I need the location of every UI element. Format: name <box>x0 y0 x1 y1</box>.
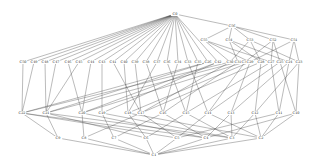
lattice-node-c23: C23 <box>295 60 303 64</box>
node-label: C33 <box>185 60 192 64</box>
lattice-edge <box>175 14 198 62</box>
lattice-node-c6: C6 <box>142 136 150 140</box>
lattice-edge <box>91 14 175 62</box>
lattice-edge <box>261 113 296 138</box>
lattice-edge <box>113 14 175 62</box>
lattice-node-c4: C4 <box>202 136 210 140</box>
lattice-node-c43: C43 <box>98 60 106 64</box>
node-label: C48 <box>42 60 49 64</box>
lattice-node-c18: C18 <box>124 111 132 115</box>
lattice-node-c19: C19 <box>98 111 106 115</box>
lattice-node-c49: C49 <box>30 60 38 64</box>
node-label: C51 <box>291 38 298 42</box>
lattice-node-c29: C29 <box>246 60 254 64</box>
lattice-edge <box>46 113 58 138</box>
lattice-edge <box>141 113 177 138</box>
node-label: C13 <box>228 111 235 115</box>
lattice-node-c15: C15 <box>182 111 190 115</box>
lattice-node-c44: C44 <box>87 60 95 64</box>
node-label: C22 <box>19 111 26 115</box>
lattice-node-c36: C36 <box>163 60 171 64</box>
node-label: C26 <box>205 60 212 64</box>
lattice-node-c3: C3 <box>228 136 236 140</box>
lattice-node-c0: C0 <box>171 12 179 16</box>
lattice-edge <box>56 14 175 62</box>
lattice-node-c47: C47 <box>52 60 60 64</box>
lattice-edge <box>114 138 154 155</box>
lattice-node-c52: C52 <box>269 38 277 42</box>
lattice-edge <box>271 62 279 113</box>
node-label: C53 <box>247 38 254 42</box>
lattice-node-c54: C54 <box>225 38 233 42</box>
lattice-edge <box>204 40 250 62</box>
lattice-node-c2: C2 <box>257 136 265 140</box>
lattice-edge <box>124 14 175 62</box>
lattice-node-c9: C9 <box>54 136 62 140</box>
lattice-node-c14: C14 <box>204 111 212 115</box>
lattice-edge <box>45 62 46 113</box>
lattice-node-c41: C41 <box>109 60 117 64</box>
lattice-node-c48: C48 <box>41 60 49 64</box>
lattice-edge <box>167 14 175 62</box>
lattice-edge <box>231 62 250 113</box>
lattice-node-c22: C22 <box>18 111 26 115</box>
lattice-node-c37: C37 <box>153 60 161 64</box>
lattice-node-c39: C39 <box>131 60 139 64</box>
node-label: C43 <box>99 60 106 64</box>
lattice-edge <box>206 113 231 138</box>
node-label: C36 <box>164 60 171 64</box>
node-label: C5 <box>175 136 180 140</box>
lattice-edge <box>175 14 232 26</box>
lattice-node-c12: C12 <box>251 111 259 115</box>
node-label: C14 <box>205 111 212 115</box>
lattice-node-c45: C45 <box>75 60 83 64</box>
node-label: C42 <box>215 60 222 64</box>
node-label: C31 <box>235 60 242 64</box>
node-label: C29 <box>247 60 254 64</box>
lattice-node-c21: C21 <box>42 111 50 115</box>
lattice-edge <box>128 62 250 113</box>
node-label: C7 <box>112 136 117 140</box>
lattice-edge <box>163 62 178 113</box>
lattice-node-c24: C24 <box>285 60 293 64</box>
lattice-edge <box>22 113 206 138</box>
node-label: C41 <box>110 60 117 64</box>
node-label: C23 <box>296 60 303 64</box>
node-label: C30 <box>227 60 234 64</box>
lattice-node-c10: C10 <box>292 111 300 115</box>
lattice-edge <box>208 62 280 113</box>
lattice-edge <box>128 113 261 138</box>
lattice-edge <box>46 113 146 138</box>
node-label: C50 <box>20 60 27 64</box>
lattice-node-c35: C35 <box>194 60 202 64</box>
lattice-node-c42: C42 <box>214 60 222 64</box>
lattice-edge <box>84 113 141 138</box>
lattice-edge <box>204 40 230 62</box>
lattice-edge <box>82 62 245 113</box>
lattice-edge <box>22 62 208 113</box>
lattice-edge <box>23 14 175 62</box>
node-label: C21 <box>43 111 50 115</box>
node-label: C0 <box>173 12 178 16</box>
lattice-edge <box>22 62 23 113</box>
node-label: C39 <box>132 60 139 64</box>
lattice-edge <box>232 26 294 40</box>
node-label: C12 <box>252 111 259 115</box>
node-label: C10 <box>293 111 300 115</box>
lattice-edge <box>82 62 218 113</box>
lattice-node-c26: C26 <box>204 60 212 64</box>
lattice-node-c7: C7 <box>110 136 118 140</box>
lattice-node-c25: C25 <box>276 60 284 64</box>
node-label: C25 <box>277 60 284 64</box>
lattice-edge <box>22 62 34 113</box>
lattice-edge <box>229 40 261 62</box>
node-label: C46 <box>65 60 72 64</box>
node-label: C34 <box>175 60 182 64</box>
node-label: C49 <box>31 60 38 64</box>
lattice-edge <box>22 113 58 138</box>
lattice-edges <box>22 14 299 155</box>
lattice-node-c27: C27 <box>267 60 275 64</box>
lattice-node-c13: C13 <box>227 111 235 115</box>
lattice-edge <box>34 14 175 62</box>
node-label: C35 <box>195 60 202 64</box>
